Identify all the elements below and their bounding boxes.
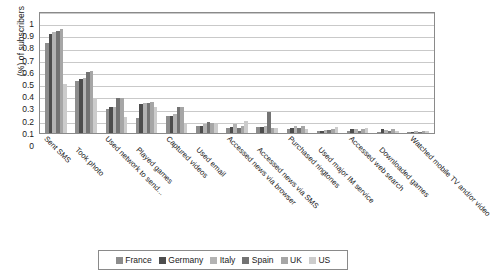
chart-legend: FranceGermanyItalySpainUKUS (98, 250, 348, 270)
legend-label: Germany (168, 255, 203, 265)
bar-group (312, 13, 342, 133)
y-axis-tick-label: 1 (29, 20, 34, 28)
bar-group (282, 13, 312, 133)
legend-swatch (281, 257, 288, 264)
legend-item: US (309, 255, 330, 265)
bar (305, 129, 309, 133)
legend-label: France (125, 255, 151, 265)
y-axis-tick-label: 0.5 (22, 81, 34, 89)
bar-group (41, 13, 71, 133)
plot-area (39, 12, 435, 134)
bar-group (162, 13, 192, 133)
bar-group (222, 13, 252, 133)
legend-swatch (159, 257, 166, 264)
bar (244, 121, 248, 133)
bar-group (252, 13, 282, 133)
y-axis-tick-label: 0.2 (22, 118, 34, 126)
bar (395, 131, 399, 133)
x-axis-tick-label: Took photo (73, 146, 105, 178)
legend-item: Germany (159, 255, 203, 265)
bar (335, 127, 339, 133)
y-axis-tick-label: 0.3 (22, 105, 34, 113)
legend-label: UK (290, 255, 302, 265)
y-axis-ticks: 00.10.20.30.40.50.60.70.80.91 (0, 12, 37, 136)
legend-swatch (309, 257, 316, 264)
bar (124, 117, 128, 133)
bar-group (343, 13, 373, 133)
bar (93, 98, 97, 133)
y-axis-tick-label: 0.1 (22, 130, 34, 138)
y-axis-tick-label: 0.8 (22, 44, 34, 52)
x-axis-tick-label: Sent SMS (42, 135, 72, 165)
y-axis-tick-label: 0.4 (22, 93, 34, 101)
legend-item: France (116, 255, 152, 265)
bar (154, 107, 158, 133)
legend-item: Italy (210, 255, 235, 265)
legend-swatch (116, 257, 123, 264)
bar-groups (40, 13, 434, 133)
bar-group (403, 13, 433, 133)
plot-frame (39, 12, 435, 134)
bar (365, 128, 369, 133)
y-axis-tick-label: 0.6 (22, 69, 34, 77)
y-axis-tick-label: 0.7 (22, 57, 34, 65)
bar-group (192, 13, 222, 133)
bar (63, 84, 67, 133)
bar-group (101, 13, 131, 133)
x-axis-labels: Sent SMSTook photoUsed network to send..… (39, 134, 435, 242)
legend-swatch (242, 257, 249, 264)
bar-group (131, 13, 161, 133)
bar-group (373, 13, 403, 133)
legend-label: US (318, 255, 330, 265)
legend-item: UK (281, 255, 302, 265)
bar-group (71, 13, 101, 133)
legend-label: Spain (252, 255, 274, 265)
legend-label: Italy (220, 255, 236, 265)
x-axis-tick-label: Watched mobile TV and/or video (408, 135, 492, 219)
legend-item: Spain (242, 255, 273, 265)
bar (184, 124, 188, 133)
y-axis-tick-label: 0.9 (22, 32, 34, 40)
legend-swatch (210, 257, 217, 264)
bar (214, 124, 218, 133)
bar (274, 128, 278, 133)
y-axis-tick-label: 0 (29, 142, 34, 150)
bar (425, 131, 429, 133)
